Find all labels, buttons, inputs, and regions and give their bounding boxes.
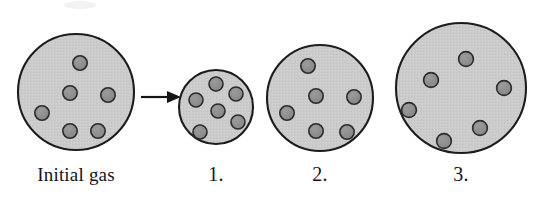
gas-particle (209, 77, 223, 91)
gas-particle (101, 88, 115, 102)
gas-particle (309, 89, 323, 103)
gas-particle (280, 106, 294, 120)
gas-particle (473, 121, 488, 136)
gas-particle (91, 124, 105, 138)
diagram-canvas: Initial gas 1. (0, 0, 541, 200)
panel-label-state-2: 2. (312, 163, 327, 185)
gas-particle (347, 90, 361, 104)
gas-particle (63, 86, 77, 100)
gas-particle (437, 134, 452, 149)
panel-label-initial-gas: Initial gas (37, 164, 115, 185)
gas-particle (229, 87, 243, 101)
gas-particle (497, 81, 512, 96)
gas-particle (189, 93, 203, 107)
panel-label-state-1: 1. (208, 163, 223, 185)
panel-label-state-3: 3. (453, 163, 468, 185)
scan-artifact (64, 1, 96, 9)
gas-particle (35, 106, 49, 120)
gas-particle (301, 59, 315, 73)
gas-particle (193, 125, 207, 139)
gas-particle (309, 124, 323, 138)
gas-particle (402, 103, 417, 118)
gas-particle (231, 115, 245, 129)
gas-particle (340, 125, 354, 139)
gas-particle (73, 56, 87, 70)
gas-particle (459, 52, 474, 67)
gas-particle (211, 104, 225, 118)
gas-particle (63, 124, 77, 138)
gas-expansion-diagram: Initial gas 1. (0, 0, 541, 200)
gas-particle (424, 73, 439, 88)
